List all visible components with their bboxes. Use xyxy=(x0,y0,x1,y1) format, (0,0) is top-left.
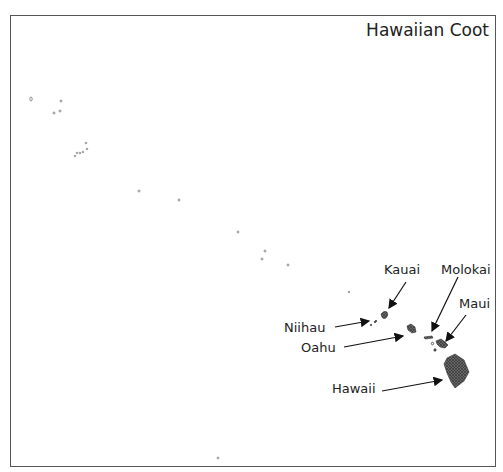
label-oahu: Oahu xyxy=(301,340,336,355)
island-oahu xyxy=(407,324,416,333)
island-lanai xyxy=(431,342,434,345)
label-molokai: Molokai xyxy=(441,262,491,277)
label-niihau: Niihau xyxy=(284,320,325,335)
island-niihau xyxy=(374,320,377,323)
northwest-islets xyxy=(30,97,350,459)
island-kauai xyxy=(381,311,388,318)
island-molokai xyxy=(424,336,433,339)
label-arrows xyxy=(335,277,466,391)
island-map xyxy=(0,0,503,472)
island-niihau-islet xyxy=(370,324,372,326)
label-kauai: Kauai xyxy=(384,262,420,277)
label-hawaii: Hawaii xyxy=(332,381,376,396)
island-kahoolawe xyxy=(434,349,436,351)
label-maui: Maui xyxy=(459,296,490,311)
island-hawaii xyxy=(444,354,469,388)
